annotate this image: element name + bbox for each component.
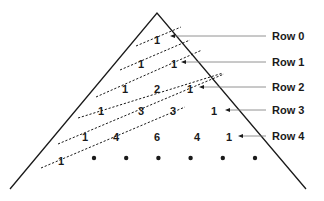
triangle-number: 1 xyxy=(211,105,217,117)
triangle-number: 6 xyxy=(154,131,160,143)
continuation-dot xyxy=(156,156,160,160)
triangle-number: 4 xyxy=(113,131,120,143)
continuation-row: 1 xyxy=(58,155,257,167)
continuation-dot xyxy=(92,156,96,160)
triangle-number: 1 xyxy=(187,83,193,95)
diagonal-lines xyxy=(41,27,224,168)
arrowhead-icon xyxy=(181,60,186,64)
arrowhead-icon xyxy=(225,108,230,112)
arrowhead-icon xyxy=(199,85,204,89)
arrowhead-icon xyxy=(170,34,175,38)
row-labels: Row 0Row 1Row 2Row 3Row 4 xyxy=(272,30,305,142)
triangle-number: 2 xyxy=(154,83,160,95)
pascal-triangle-diagram: 111121133114641 Row 0Row 1Row 2Row 3Row … xyxy=(0,0,324,201)
arrowhead-icon xyxy=(238,134,243,138)
triangle-number: 1 xyxy=(171,58,177,70)
continuation-dot xyxy=(253,156,257,160)
continuation-first-number: 1 xyxy=(58,155,64,167)
continuation-dot xyxy=(124,156,128,160)
continuation-dot xyxy=(221,156,225,160)
continuation-dot xyxy=(188,156,192,160)
row-label: Row 2 xyxy=(272,81,304,93)
triangle-number: 3 xyxy=(170,105,176,117)
triangle-number: 3 xyxy=(138,105,144,117)
triangle-number: 1 xyxy=(226,131,232,143)
row-label: Row 4 xyxy=(272,130,305,142)
triangle-numbers: 111121133114641 xyxy=(82,34,232,143)
row-label: Row 0 xyxy=(272,30,304,42)
row-label: Row 1 xyxy=(272,56,304,68)
triangle-number: 1 xyxy=(122,83,128,95)
triangle-number: 1 xyxy=(98,105,104,117)
triangle-number: 1 xyxy=(82,131,88,143)
triangle-number: 1 xyxy=(154,34,160,46)
triangle-number: 4 xyxy=(194,131,201,143)
row-label: Row 3 xyxy=(272,104,304,116)
triangle-number: 1 xyxy=(138,58,144,70)
